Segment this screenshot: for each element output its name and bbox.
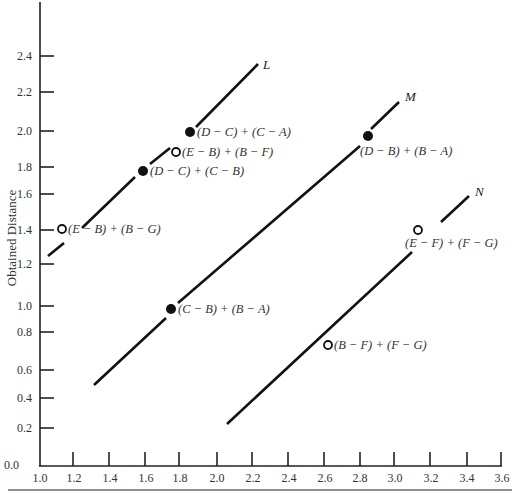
svg-text:0.0: 0.0: [4, 458, 19, 472]
point-filled: [166, 304, 176, 314]
svg-text:1.6: 1.6: [139, 471, 154, 485]
svg-text:1.8: 1.8: [173, 471, 188, 485]
chart: 0.0 0.2 0.4 0.6 0.8 1.0 1.2 1.4 1.6 1.8 …: [0, 0, 520, 493]
svg-text:(D − C) + (C − A): (D − C) + (C − A): [197, 125, 291, 139]
svg-text:(C − B) + (B − A): (C − B) + (B − A): [178, 302, 270, 316]
line-N-label: N: [474, 184, 485, 199]
x-ticks: [73, 452, 501, 466]
point-open: [324, 341, 332, 349]
svg-text:(E − F) + (F − G): (E − F) + (F − G): [405, 236, 498, 250]
svg-text:(E − B) + (B − F): (E − B) + (B − F): [182, 145, 273, 159]
line-M-label: M: [404, 89, 417, 104]
line-L-label: L: [262, 57, 270, 72]
svg-text:1.4: 1.4: [103, 471, 118, 485]
svg-text:(E − B) + (B − G): (E − B) + (B − G): [68, 222, 161, 236]
svg-text:1.8: 1.8: [17, 160, 32, 174]
svg-text:2.2: 2.2: [17, 85, 32, 99]
svg-text:3.0: 3.0: [388, 471, 403, 485]
svg-text:2.0: 2.0: [210, 471, 225, 485]
svg-text:2.0: 2.0: [17, 124, 32, 138]
svg-text:2.4: 2.4: [282, 471, 297, 485]
svg-text:(D − B) + (B − A): (D − B) + (B − A): [360, 144, 452, 158]
point-filled: [185, 127, 195, 137]
svg-text:1.2: 1.2: [67, 471, 82, 485]
svg-text:3.2: 3.2: [424, 471, 439, 485]
svg-text:2.2: 2.2: [246, 471, 261, 485]
point-open: [414, 226, 422, 234]
svg-text:2.6: 2.6: [318, 471, 333, 485]
svg-text:1.0: 1.0: [33, 471, 48, 485]
svg-text:0.6: 0.6: [17, 363, 32, 377]
svg-text:3.6: 3.6: [495, 471, 510, 485]
svg-text:1.0: 1.0: [17, 299, 32, 313]
svg-text:(D − C) + (C − B): (D − C) + (C − B): [150, 164, 244, 178]
svg-text:3.4: 3.4: [460, 471, 475, 485]
svg-text:2.4: 2.4: [17, 49, 32, 63]
svg-text:0.2: 0.2: [17, 421, 32, 435]
point-open: [58, 225, 66, 233]
x-tick-labels: 1.0 1.2 1.4 1.6 1.8 2.0 2.2 2.4 2.6 2.8 …: [33, 471, 510, 485]
point-filled: [138, 166, 148, 176]
svg-text:1.2: 1.2: [17, 257, 32, 271]
y-axis-title: Obtained Distance: [4, 190, 19, 287]
y-ticks: [40, 56, 54, 428]
svg-text:0.8: 0.8: [17, 325, 32, 339]
svg-text:2.8: 2.8: [353, 471, 368, 485]
point-labels: (D − C) + (C − A) (E − B) + (B − F) (D −…: [68, 125, 498, 352]
point-open: [172, 148, 180, 156]
point-filled: [363, 131, 373, 141]
svg-text:1.6: 1.6: [17, 187, 32, 201]
svg-text:1.4: 1.4: [17, 223, 32, 237]
svg-text:0.4: 0.4: [17, 391, 32, 405]
svg-text:(B − F) + (F − G): (B − F) + (F − G): [334, 338, 427, 352]
